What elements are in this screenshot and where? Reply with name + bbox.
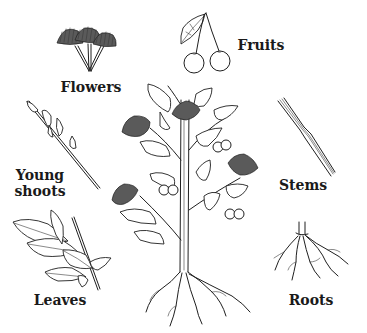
roots-illustration	[274, 222, 348, 280]
label-stems: Stems	[278, 177, 328, 193]
label-flowers: Flowers	[59, 79, 123, 95]
fruits-illustration	[181, 13, 230, 73]
label-young-shoots-line1: Young	[10, 167, 70, 183]
stems-illustration	[278, 98, 335, 176]
plant-parts-diagram: Flowers Fruits Young shoots Stems Leaves…	[0, 0, 367, 333]
label-leaves: Leaves	[30, 292, 90, 308]
label-roots: Roots	[286, 292, 336, 308]
label-young-shoots-line2: shoots	[10, 183, 70, 199]
flowers-illustration	[57, 27, 116, 71]
whole-plant-illustration	[112, 84, 258, 326]
label-young-shoots: Young shoots	[10, 167, 70, 199]
label-fruits: Fruits	[236, 37, 286, 53]
leaves-illustration	[13, 210, 111, 290]
